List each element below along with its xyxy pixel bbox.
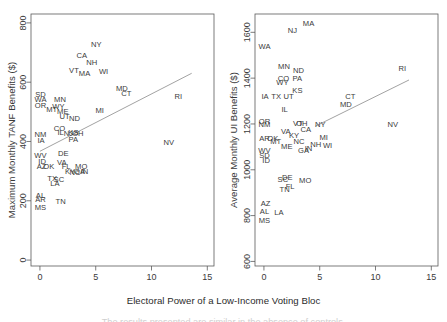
svg-text:MT: MT <box>46 105 57 114</box>
svg-text:600: 600 <box>242 254 252 269</box>
svg-text:PA: PA <box>293 74 304 83</box>
svg-text:5: 5 <box>93 272 98 282</box>
scatter-figure: 0510150200400600800Maximum Monthly TANF … <box>0 0 447 322</box>
tanf-plot-area: 0510150200400600800Maximum Monthly TANF … <box>0 0 223 300</box>
svg-text:MA: MA <box>303 19 315 28</box>
svg-text:1000: 1000 <box>242 160 252 180</box>
svg-text:0: 0 <box>261 272 266 282</box>
svg-text:TX: TX <box>271 92 281 101</box>
svg-text:IN: IN <box>305 144 313 153</box>
svg-text:NV: NV <box>388 120 399 129</box>
svg-text:PA: PA <box>69 135 80 144</box>
svg-text:10: 10 <box>371 272 381 282</box>
svg-text:Average Monthly UI Benefits ($: Average Monthly UI Benefits ($) <box>228 72 239 208</box>
svg-text:1200: 1200 <box>242 114 252 134</box>
svg-text:TN: TN <box>56 197 66 206</box>
svg-text:NV: NV <box>164 138 175 147</box>
svg-text:600: 600 <box>18 75 28 90</box>
svg-text:WI: WI <box>99 67 108 76</box>
svg-text:LA: LA <box>50 179 60 188</box>
svg-text:MI: MI <box>95 106 103 115</box>
svg-text:1600: 1600 <box>242 22 252 42</box>
svg-text:0: 0 <box>18 258 28 263</box>
svg-text:10: 10 <box>147 272 157 282</box>
svg-text:DE: DE <box>282 173 293 182</box>
svg-text:400: 400 <box>18 134 28 149</box>
svg-text:MA: MA <box>79 69 91 78</box>
panel-tanf: 0510150200400600800Maximum Monthly TANF … <box>0 0 223 300</box>
svg-text:IA: IA <box>37 136 45 145</box>
svg-text:UT: UT <box>283 92 293 101</box>
svg-text:ID: ID <box>262 156 270 165</box>
svg-text:IN: IN <box>81 167 89 176</box>
svg-text:5: 5 <box>317 272 322 282</box>
svg-text:NY: NY <box>91 40 102 49</box>
svg-text:15: 15 <box>202 272 212 282</box>
svg-text:MS: MS <box>35 203 46 212</box>
svg-text:OK: OK <box>43 162 54 171</box>
svg-text:800: 800 <box>18 15 28 30</box>
svg-text:IA: IA <box>261 92 269 101</box>
svg-text:WI: WI <box>323 141 332 150</box>
figure-caption-clipped: The results presented are similar in the… <box>0 313 447 322</box>
svg-text:IL: IL <box>281 105 287 114</box>
svg-text:MO: MO <box>299 176 311 185</box>
svg-text:800: 800 <box>242 208 252 223</box>
svg-text:ND: ND <box>69 114 80 123</box>
svg-text:ME: ME <box>281 142 292 151</box>
svg-text:CT: CT <box>121 89 131 98</box>
svg-text:NH: NH <box>86 58 97 67</box>
svg-text:MS: MS <box>259 216 270 225</box>
svg-text:RI: RI <box>398 64 406 73</box>
svg-text:NM: NM <box>259 120 271 129</box>
svg-text:MD: MD <box>340 100 352 109</box>
svg-text:15: 15 <box>426 272 436 282</box>
svg-text:NC: NC <box>294 137 305 146</box>
panel-ui: 0510156008001000120014001600Average Mont… <box>224 0 447 300</box>
svg-text:OR: OR <box>35 101 47 110</box>
svg-text:TN: TN <box>280 185 290 194</box>
svg-text:WA: WA <box>259 42 272 51</box>
svg-text:VT: VT <box>69 66 79 75</box>
svg-text:AL: AL <box>260 207 269 216</box>
svg-text:KS: KS <box>292 86 302 95</box>
svg-text:MN: MN <box>278 62 290 71</box>
ui-plot-area: 0510156008001000120014001600Average Mont… <box>224 0 447 300</box>
svg-text:NJ: NJ <box>288 26 297 35</box>
svg-text:0: 0 <box>37 272 42 282</box>
svg-text:MT: MT <box>270 137 281 146</box>
svg-text:LA: LA <box>274 208 284 217</box>
svg-text:200: 200 <box>18 193 28 208</box>
svg-text:1400: 1400 <box>242 68 252 88</box>
svg-text:RI: RI <box>174 92 182 101</box>
x-axis-label: Electoral Power of a Low-Income Voting B… <box>0 295 447 306</box>
svg-text:NY: NY <box>315 120 326 129</box>
svg-text:Maximum Monthly TANF Benefits: Maximum Monthly TANF Benefits ($) <box>6 62 17 218</box>
svg-text:CA: CA <box>300 125 311 134</box>
svg-text:WY: WY <box>276 78 288 87</box>
